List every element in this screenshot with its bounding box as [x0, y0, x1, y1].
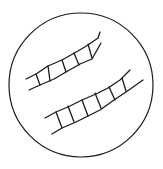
cell-wall [48, 66, 50, 81]
bottom-rail [52, 80, 143, 134]
cell-wall [82, 100, 88, 116]
cell-wall [109, 87, 115, 100]
lower-chain [45, 70, 143, 134]
cell-wall [88, 44, 92, 58]
cell-wall [36, 74, 40, 85]
cell-wall [74, 53, 79, 65]
cell-chains-group [26, 32, 143, 134]
cell-chain-illustration [0, 0, 163, 169]
cell-wall [68, 106, 74, 122]
diagram-canvas: Circular field of view containing two la… [0, 0, 163, 169]
cell-wall [122, 78, 126, 91]
cell-wall [56, 112, 62, 128]
field-of-view-circle [9, 13, 153, 157]
upper-chain [26, 32, 101, 90]
cell-wall [95, 93, 101, 108]
cell-wall [62, 60, 66, 72]
top-rail [26, 32, 100, 79]
